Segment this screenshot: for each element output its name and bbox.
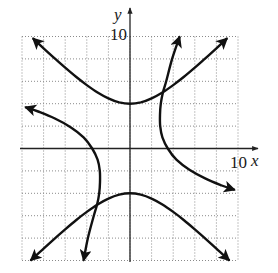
x-max-tick-label: 10 [230, 153, 247, 172]
curve-3 [160, 37, 235, 190]
hyperbola-graph: x y 10 10 [0, 0, 278, 273]
x-axis-label: x [250, 151, 259, 170]
axes [20, 8, 258, 262]
y-axis-label: y [112, 5, 122, 24]
curve-4 [25, 107, 100, 260]
y-max-tick-label: 10 [110, 25, 127, 44]
